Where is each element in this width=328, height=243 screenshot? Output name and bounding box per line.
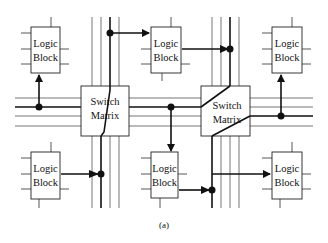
switch-matrix-left: Switch Matrix: [81, 86, 129, 136]
switch-matrix-label: Switch: [90, 96, 120, 107]
horizontal-channel: [15, 98, 313, 126]
switch-matrix-label: Matrix: [213, 114, 242, 125]
logic-block-label: Block: [33, 177, 59, 188]
switch-matrix-right: Switch Matrix: [201, 86, 250, 136]
logic-block-label: Block: [274, 52, 300, 63]
switch-matrix-label: Switch: [212, 100, 242, 111]
logic-block-label: Block: [274, 177, 300, 188]
switch-matrix-label: Matrix: [91, 110, 120, 121]
logic-block-label: Logic: [275, 38, 300, 49]
figure-caption: (a): [159, 220, 169, 230]
logic-block-label: Block: [152, 177, 178, 188]
logic-block-top-left: Logic Block: [21, 17, 69, 73]
logic-block-bottom-right: Logic Block: [262, 142, 311, 208]
logic-block-top-right: Logic Block: [262, 17, 311, 73]
logic-block-label: Logic: [33, 163, 58, 174]
logic-block-label: Block: [33, 52, 59, 63]
logic-block-bottom-left: Logic Block: [21, 142, 69, 208]
logic-block-bottom-middle: Logic Block: [141, 152, 187, 208]
logic-block-label: Logic: [275, 163, 300, 174]
logic-block-label: Logic: [154, 38, 179, 49]
logic-block-label: Logic: [33, 38, 58, 49]
logic-block-label: Block: [153, 52, 179, 63]
fpga-routing-diagram: Switch Matrix Switch Matrix Logic Block …: [0, 0, 328, 243]
logic-block-label: Logic: [152, 163, 177, 174]
